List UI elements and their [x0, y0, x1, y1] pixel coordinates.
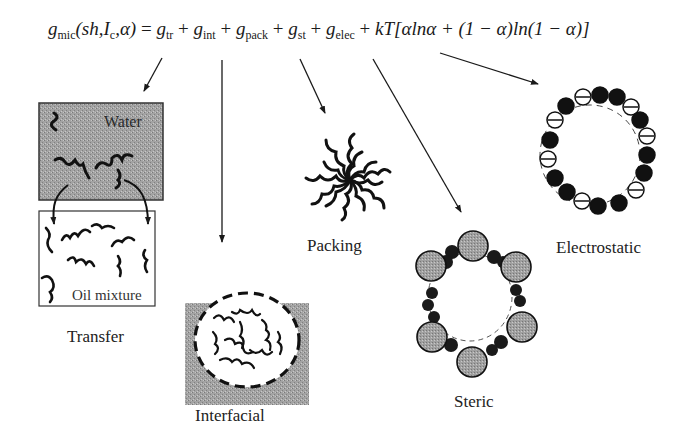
steric-illustration [416, 231, 537, 377]
water-label: Water [104, 113, 142, 131]
packing-label: Packing [307, 236, 362, 256]
arrow-transfer [144, 58, 162, 91]
arrow-steric [373, 59, 461, 212]
electrostatic-label: Electrostatic [556, 238, 641, 258]
oil-mixture-label: Oil mixture [72, 287, 142, 304]
transfer-label: Transfer [67, 327, 124, 347]
arrow-packing [300, 59, 325, 113]
arrow-electrostatic [440, 53, 538, 84]
steric-label: Steric [454, 392, 494, 412]
interfacial-label: Interfacial [195, 406, 265, 426]
connector-arrows [144, 53, 538, 242]
packing-illustration [306, 134, 390, 220]
interfacial-illustration [185, 293, 309, 405]
transfer-illustration [39, 103, 163, 306]
diagram-canvas [0, 0, 691, 439]
electrostatic-illustration [540, 87, 655, 214]
